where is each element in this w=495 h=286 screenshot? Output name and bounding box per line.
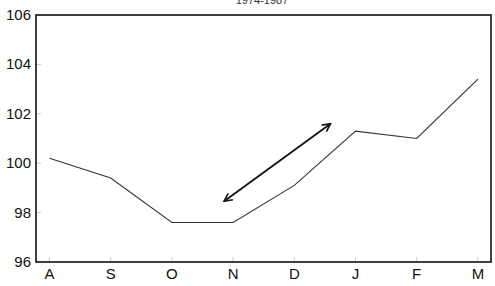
y-tick-label: 106 (6, 6, 31, 23)
x-tick-label: N (228, 265, 239, 282)
x-tick-label: A (44, 265, 54, 282)
double-arrow-annotation (224, 124, 330, 202)
x-tick-label: D (289, 265, 300, 282)
x-tick-label: M (472, 265, 485, 282)
x-axis: ASONDJFM (44, 257, 484, 282)
y-tick-label: 102 (6, 105, 31, 122)
line-chart: 1974-1987 9698100102104106 ASONDJFM (0, 0, 495, 286)
y-tick-label: 100 (6, 154, 31, 171)
data-line (50, 79, 478, 222)
y-tick-label: 104 (6, 55, 31, 72)
y-tick-label: 96 (14, 253, 31, 270)
x-tick-label: O (166, 265, 178, 282)
x-tick-label: F (412, 265, 421, 282)
x-tick-label: S (106, 265, 116, 282)
chart-title: 1974-1987 (236, 0, 289, 6)
plot-frame (36, 15, 491, 262)
y-tick-label: 98 (14, 204, 31, 221)
x-tick-label: J (352, 265, 360, 282)
